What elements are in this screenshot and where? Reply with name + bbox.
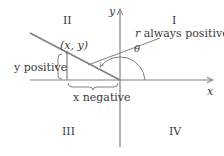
r-annotation: r always positive xyxy=(135,28,224,39)
r-annotation-text: always positive xyxy=(140,27,224,40)
point-label: (x, y) xyxy=(60,40,88,51)
theta-arc xyxy=(100,57,145,80)
theta-label: θ xyxy=(134,44,140,54)
quadrant-iii-label: III xyxy=(62,126,75,137)
quadrant-i-label: I xyxy=(172,15,176,26)
quadrant-ii-label: II xyxy=(63,15,72,26)
x-axis-label: x xyxy=(207,86,213,97)
x-brace xyxy=(68,83,118,90)
y-annotation: y positive xyxy=(14,62,67,73)
x-annotation: x negative xyxy=(73,92,131,103)
r-leader-line xyxy=(88,38,160,65)
polar-coordinate-diagram xyxy=(0,0,224,156)
quadrant-iv-label: IV xyxy=(169,126,181,137)
y-axis-label: y xyxy=(109,6,115,17)
